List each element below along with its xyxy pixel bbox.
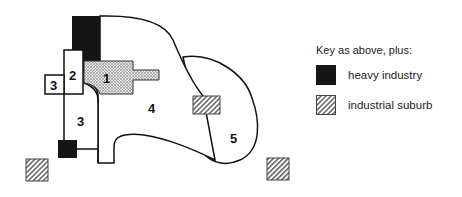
zone-label-1: 1 xyxy=(103,71,110,86)
industrial-suburb-left xyxy=(26,159,48,181)
industrial-suburb-swatch-icon xyxy=(316,95,336,115)
heavy-industry-swatch-icon xyxy=(316,65,336,85)
urban-zone-map: 1 2 3 3 4 5 xyxy=(0,0,300,197)
zone-label-3-lower: 3 xyxy=(77,114,84,129)
legend-item-heavy-industry: heavy industry xyxy=(316,64,432,86)
zone-label-2: 2 xyxy=(69,68,76,83)
zone-label-4: 4 xyxy=(148,101,156,116)
industrial-suburb-zone-4-5 xyxy=(193,96,220,114)
legend-label: industrial suburb xyxy=(348,99,432,111)
legend: Key as above, plus: heavy industry indus… xyxy=(316,44,432,124)
zone-label-3-upper: 3 xyxy=(50,78,57,93)
industrial-suburb-right xyxy=(267,158,289,180)
legend-item-industrial-suburb: industrial suburb xyxy=(316,94,432,116)
legend-title: Key as above, plus: xyxy=(316,44,432,56)
heavy-industry-block-bottom xyxy=(58,140,77,158)
legend-label: heavy industry xyxy=(348,69,422,81)
zone-label-5: 5 xyxy=(230,131,237,146)
